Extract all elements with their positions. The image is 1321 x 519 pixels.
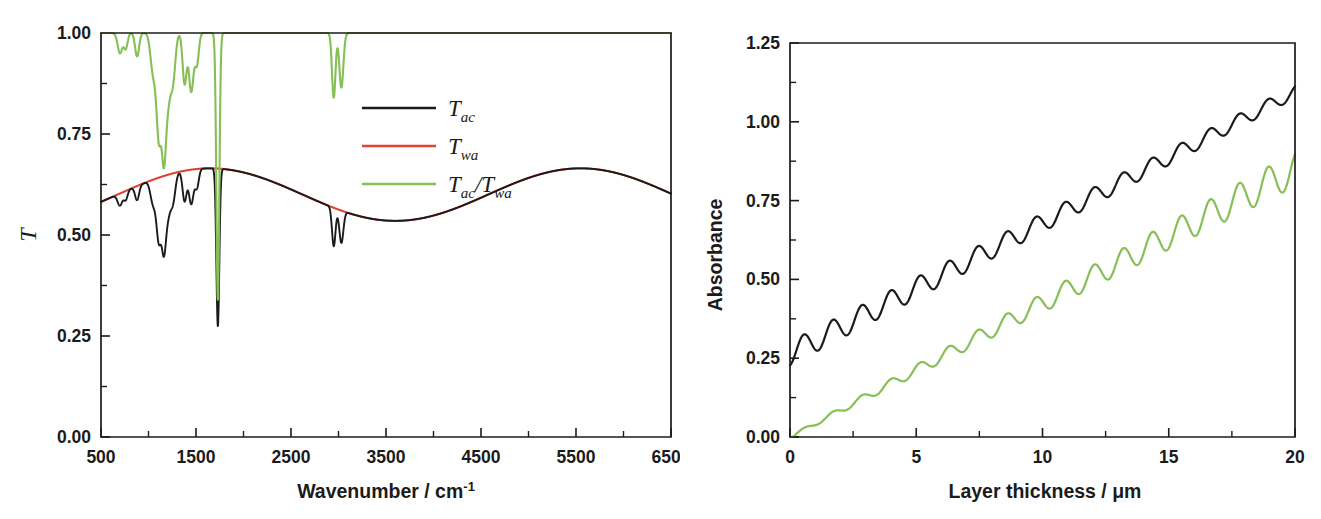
x-tick-label: 0 <box>785 447 795 467</box>
y-tick-label: 0.25 <box>57 326 91 346</box>
left-x-axis-title-superscript: -1 <box>463 479 475 494</box>
y-tick-label: 0.25 <box>746 348 780 368</box>
y-tick-label: 0.00 <box>746 427 780 447</box>
x-tick-label: 10 <box>1033 447 1053 467</box>
left-axis-ticks <box>101 33 671 437</box>
left-y-axis-title: T <box>15 227 41 242</box>
left-x-axis-title-main: Wavenumber / cm <box>297 480 463 502</box>
left-legend: TacTwaTac/Twa <box>362 96 512 201</box>
legend-symbol-2: /T <box>473 172 496 197</box>
legend-subscript: wa <box>461 147 479 163</box>
right-tick-labels: 051015200.000.250.500.751.001.25 <box>746 33 1305 467</box>
figure-root: 5001500250035004500550065000.000.250.500… <box>0 0 1321 519</box>
curve-T_ac-over-T_wa <box>101 33 671 300</box>
transmission-spectrum-svg: 5001500250035004500550065000.000.250.500… <box>0 0 680 519</box>
left-curves-group <box>101 33 671 326</box>
x-tick-label: 1500 <box>177 447 216 467</box>
legend-label-T_ac: Tac <box>448 96 475 125</box>
x-tick-label: 5500 <box>557 447 596 467</box>
y-tick-label: 0.50 <box>57 225 91 245</box>
legend-subscript-2: wa <box>494 185 512 201</box>
left-x-axis-title: Wavenumber / cm-1 <box>297 479 475 502</box>
x-tick-label: 6500 <box>652 447 680 467</box>
right-axis-frame <box>790 43 1295 437</box>
left-tick-labels: 5001500250035004500550065000.000.250.500… <box>57 23 680 467</box>
legend-label-T_ac-over-T_wa: Tac/Twa <box>448 172 512 201</box>
x-tick-label: 500 <box>86 447 115 467</box>
absorbance-panel: 051015200.000.250.500.751.001.25 Absorba… <box>680 0 1321 519</box>
x-tick-label: 2500 <box>272 447 311 467</box>
right-y-axis-title: Absorbance <box>704 199 726 312</box>
right-x-axis-title-main: Layer thickness / <box>949 480 1113 502</box>
x-tick-label: 15 <box>1159 447 1179 467</box>
curve-A_ratio <box>790 154 1295 437</box>
y-tick-label: 0.50 <box>746 269 780 289</box>
right-axis-ticks <box>790 43 1295 437</box>
right-x-axis-title-unit: μm <box>1112 480 1141 502</box>
transmission-spectrum-panel: 5001500250035004500550065000.000.250.500… <box>0 0 680 519</box>
x-tick-label: 3500 <box>367 447 406 467</box>
legend-subscript: ac <box>461 109 476 125</box>
y-tick-label: 1.25 <box>746 33 780 53</box>
legend-subscript: ac <box>461 185 476 201</box>
right-curves-group <box>790 86 1295 437</box>
left-axis-frame <box>101 33 671 437</box>
y-tick-label: 0.75 <box>57 124 91 144</box>
curve-A_ac <box>790 86 1295 365</box>
y-tick-label: 0.75 <box>746 191 780 211</box>
y-tick-label: 1.00 <box>57 23 91 43</box>
curve-T_ac <box>101 168 671 326</box>
x-tick-label: 5 <box>911 447 921 467</box>
right-x-axis-title: Layer thickness / μm <box>949 480 1142 502</box>
legend-label-T_wa: Twa <box>448 134 478 163</box>
x-tick-label: 4500 <box>462 447 501 467</box>
y-tick-label: 1.00 <box>746 112 780 132</box>
x-tick-label: 20 <box>1285 447 1305 467</box>
absorbance-svg: 051015200.000.250.500.751.001.25 Absorba… <box>680 0 1321 519</box>
y-tick-label: 0.00 <box>57 427 91 447</box>
